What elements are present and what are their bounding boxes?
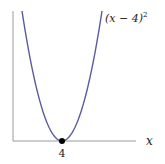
x-axis-label: x (146, 134, 153, 148)
vertex-point (59, 138, 65, 144)
vertex-tick-label: 4 (59, 147, 66, 160)
curve-x-minus-4-squared (22, 11, 102, 141)
parabola-chart: x 4 (x − 4)2 (0, 0, 165, 164)
curve-label-exponent: 2 (143, 11, 147, 19)
curve-label: (x − 4)2 (105, 11, 147, 25)
